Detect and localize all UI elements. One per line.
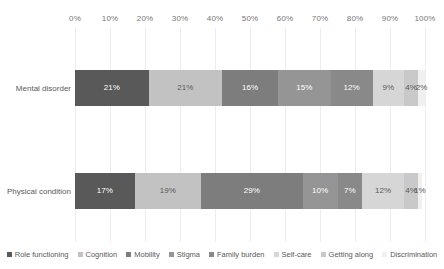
bar-segment[interactable]: 12% xyxy=(362,173,404,209)
x-tick-label: 100% xyxy=(415,14,436,23)
bar-segment[interactable]: 19% xyxy=(135,173,202,209)
bar-segment-value-label: 10% xyxy=(312,187,328,195)
bar-segment[interactable]: 16% xyxy=(222,70,278,106)
x-tick-label: 90% xyxy=(382,14,398,23)
bar-segment[interactable]: 21% xyxy=(75,70,149,106)
bar-segment-value-label: 19% xyxy=(160,187,176,195)
legend-swatch-icon xyxy=(382,252,387,257)
legend-item[interactable]: Mobility xyxy=(126,250,159,259)
bar-segment-value-label: 21% xyxy=(177,84,193,92)
bar-segment-value-label: 16% xyxy=(242,84,258,92)
legend-swatch-icon xyxy=(321,252,326,257)
bar-segment-value-label: 17% xyxy=(97,187,113,195)
legend-swatch-icon xyxy=(169,252,174,257)
bar-segment[interactable]: 10% xyxy=(303,173,338,209)
bar-segment[interactable]: 17% xyxy=(75,173,135,209)
legend-label: Self-care xyxy=(282,250,312,259)
x-tick-label: 40% xyxy=(207,14,223,23)
x-axis-tick-labels: 0%10%20%30%40%50%60%70%80%90%100% xyxy=(0,14,444,28)
x-tick-label: 30% xyxy=(172,14,188,23)
x-tick-label: 50% xyxy=(242,14,258,23)
chart-plot-area: Mental disorder21%21%16%15%12%9%4%2%Phys… xyxy=(0,28,444,242)
chart-legend: Role functioningCognitionMobilityStigmaF… xyxy=(0,246,444,262)
bar-segment[interactable]: 7% xyxy=(338,173,363,209)
legend-item[interactable]: Discrimination xyxy=(382,250,437,259)
legend-label: Cognition xyxy=(86,250,118,259)
bar-segment[interactable]: 2% xyxy=(418,70,425,106)
bar-row: Physical condition17%19%29%10%7%12%4%1% xyxy=(0,173,444,209)
legend-swatch-icon xyxy=(209,252,214,257)
legend-item[interactable]: Role functioning xyxy=(7,250,69,259)
bar-segment[interactable]: 1% xyxy=(418,173,422,209)
bar-segment-value-label: 9% xyxy=(382,84,394,92)
legend-swatch-icon xyxy=(7,252,12,257)
bar-segment-value-label: 15% xyxy=(296,84,312,92)
legend-swatch-icon xyxy=(274,252,279,257)
legend-item[interactable]: Stigma xyxy=(169,250,200,259)
bar-row: Mental disorder21%21%16%15%12%9%4%2% xyxy=(0,70,444,106)
legend-label: Mobility xyxy=(134,250,159,259)
legend-swatch-icon xyxy=(126,252,131,257)
bar-segment[interactable]: 15% xyxy=(278,70,331,106)
legend-label: Discrimination xyxy=(390,250,437,259)
legend-item[interactable]: Self-care xyxy=(274,250,312,259)
bar-segment-value-label: 1% xyxy=(414,187,426,195)
legend-label: Role functioning xyxy=(15,250,69,259)
x-tick-label: 0% xyxy=(69,14,81,23)
bar-segment-value-label: 12% xyxy=(375,187,391,195)
bar-segment-value-label: 12% xyxy=(343,84,359,92)
bar-segment-value-label: 21% xyxy=(104,84,120,92)
legend-item[interactable]: Family burden xyxy=(209,250,265,259)
legend-item[interactable]: Cognition xyxy=(78,250,118,259)
bar-segment-value-label: 2% xyxy=(416,84,428,92)
bar-track: 21%21%16%15%12%9%4%2% xyxy=(75,70,425,106)
legend-swatch-icon xyxy=(78,252,83,257)
legend-label: Stigma xyxy=(177,250,200,259)
bar-segment[interactable]: 9% xyxy=(373,70,405,106)
x-tick-label: 10% xyxy=(102,14,118,23)
bar-track: 17%19%29%10%7%12%4%1% xyxy=(75,173,425,209)
x-tick-label: 80% xyxy=(347,14,363,23)
legend-label: Family burden xyxy=(217,250,265,259)
legend-item[interactable]: Getting along xyxy=(321,250,374,259)
x-tick-label: 20% xyxy=(137,14,153,23)
bar-segment[interactable]: 29% xyxy=(201,173,303,209)
bar-segment-value-label: 29% xyxy=(244,187,260,195)
legend-label: Getting along xyxy=(329,250,374,259)
x-tick-label: 60% xyxy=(277,14,293,23)
stacked-bar-chart: 0%10%20%30%40%50%60%70%80%90%100% Mental… xyxy=(0,0,444,269)
bar-category-label: Physical condition xyxy=(7,187,71,196)
bar-segment[interactable]: 12% xyxy=(331,70,373,106)
x-tick-label: 70% xyxy=(312,14,328,23)
bar-segment[interactable]: 21% xyxy=(149,70,223,106)
bar-category-label: Mental disorder xyxy=(16,84,71,93)
bar-segment-value-label: 7% xyxy=(344,187,356,195)
